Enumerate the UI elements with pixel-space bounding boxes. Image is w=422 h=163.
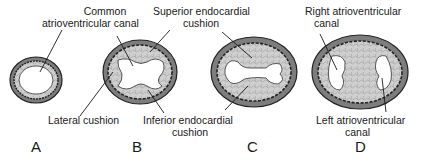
label-left-av-canal-line1: Left atrioventricular — [316, 114, 405, 126]
label-line: Common — [70, 5, 140, 17]
label-inferior-cushion-line1: Inferior endocardial — [143, 114, 233, 126]
label-common-av-canal: Common — [70, 5, 140, 17]
label-superior-cushion-line1: Superior endocardial — [153, 5, 250, 17]
panel-b-oval — [103, 40, 177, 104]
panel-label-c: C — [247, 139, 258, 155]
panel-d-oval — [312, 35, 408, 109]
label-lateral-cushion: Lateral cushion — [48, 114, 119, 126]
label-common-av-canal-line2: atrioventricular canal — [42, 17, 139, 29]
label-right-av-canal-line1: Right atrioventricular — [305, 5, 401, 17]
label-inferior-cushion-line2: cushion — [172, 126, 208, 138]
panel-c-oval — [211, 37, 297, 107]
label-right-av-canal-line2: canal — [314, 17, 339, 29]
label-left-av-canal-line2: canal — [345, 126, 370, 138]
panel-label-a: A — [31, 139, 41, 155]
panel-label-b: B — [132, 139, 142, 155]
label-superior-cushion-line2: cushion — [183, 17, 219, 29]
panel-label-d: D — [355, 139, 366, 155]
panel-a-ring — [10, 57, 62, 103]
